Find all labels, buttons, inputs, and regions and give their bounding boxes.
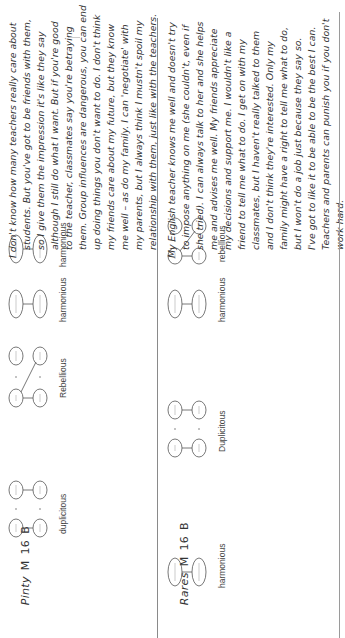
diagram-label: Duplicitous	[217, 410, 227, 452]
quote-line: them. Group influences are dangerous, yo…	[76, 5, 90, 258]
relationship-diagram-duplicitous: Duplicitous	[165, 382, 225, 462]
pair-diagram-icon	[165, 272, 210, 322]
quote-line: students. But you've got to be friends w…	[20, 5, 34, 258]
quote-line: up doing things you don't want to do. I …	[90, 5, 104, 258]
quote-line: me and advises me well. My friends appre…	[207, 19, 221, 258]
diagram-label: harmonious	[58, 278, 68, 322]
two-pairs-diagram-icon	[6, 462, 51, 542]
quote-line: to impose anything on me (she couldn't, …	[179, 19, 193, 258]
two-pairs-diagram-icon	[165, 382, 210, 462]
table-row-rares: RaresM16B harmonious	[158, 0, 339, 638]
interview-quote: My English teacher knows me well and doe…	[165, 19, 345, 258]
quote-line: My English teacher knows me well and doe…	[165, 19, 179, 258]
relationship-diagram-rebellious: Rebellious	[6, 332, 66, 412]
quote-line: my parents, but I always think I mustn't…	[132, 5, 146, 258]
quote-line: my friends care about my future, but the…	[104, 5, 118, 258]
rotated-document-page: PintyM16B duplicitous	[0, 0, 345, 638]
quote-line: me well – as do my family. I can 'negoti…	[118, 5, 132, 258]
table-row-pinty: PintyM16B duplicitous	[0, 0, 157, 638]
cross-diagram-icon	[6, 332, 51, 412]
subject-name: Pinty	[19, 576, 32, 605]
quote-line: friend to tell me what to do. I get on w…	[235, 19, 249, 258]
relationship-diagram-harmonious: harmonious	[165, 512, 225, 592]
relationship-diagram-duplicitous: duplicitous	[6, 462, 66, 542]
quote-line: I've got to like it to be able to be the…	[305, 19, 319, 258]
quote-line: I don't know how many teachers really ca…	[6, 5, 20, 258]
table-bottom-border	[339, 12, 340, 638]
quote-line: so I give them the impression it's like …	[34, 5, 48, 258]
quote-line: family might have a right to tell me wha…	[277, 19, 291, 258]
quote-line: Teachers and parents can punish you if y…	[319, 19, 333, 258]
quote-line: my decisions and support me. I wouldn't …	[221, 19, 235, 258]
diagram-label: harmonious	[217, 278, 227, 322]
quote-line: to the teacher, classmates say you're be…	[62, 5, 76, 258]
pair-diagram-icon	[165, 542, 210, 592]
quote-line: although I still do what I want. But if …	[48, 5, 62, 258]
subject-gender: M	[19, 560, 32, 570]
quote-line: she tried). I can always talk to her and…	[193, 19, 207, 258]
quote-line: but I won't do a job just because they s…	[291, 19, 305, 258]
subject-age: 16	[19, 540, 32, 555]
diagram-label: Rebellious	[58, 358, 68, 398]
page-mark-decoration	[68, 34, 80, 38]
quote-line: classmates, but I haven't really talked …	[249, 19, 263, 258]
interview-quote: I don't know how many teachers really ca…	[6, 5, 160, 258]
quote-line: and I don't think they're interested. On…	[263, 19, 277, 258]
diagram-label: harmonious	[217, 544, 227, 588]
pair-diagram-icon	[6, 272, 51, 322]
diagram-label: duplicitous	[58, 494, 68, 534]
